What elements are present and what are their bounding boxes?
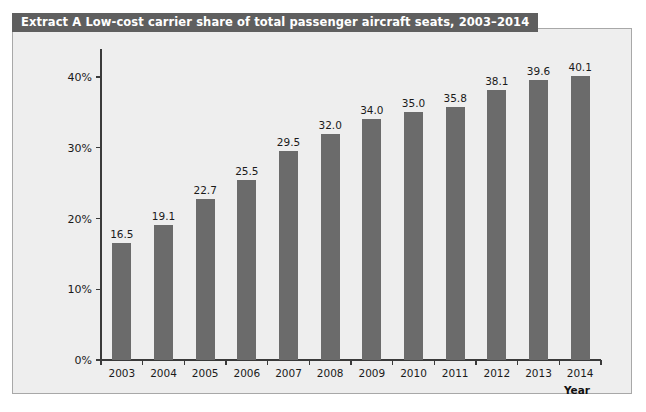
x-axis-tick-label: 2006 [233,367,260,379]
x-axis-title: Year [563,384,591,395]
chart-panel: 0%10%20%30%40%16.5200319.1200422.7200525… [12,28,632,394]
bar [362,119,381,360]
bar-value-label: 25.5 [235,165,258,177]
bar-value-label: 34.0 [360,104,383,116]
bar-value-label: 39.6 [527,65,551,77]
bar [237,180,256,360]
bar [446,107,465,360]
x-axis-tick-label: 2004 [150,367,177,379]
chart-title-bar: Extract A Low-cost carrier share of tota… [12,13,538,32]
x-axis-tick-label: 2014 [567,367,594,379]
bar-value-label: 29.5 [277,136,300,148]
page-title: Extract A Low-cost carrier share of tota… [21,13,529,32]
bar-value-label: 38.1 [485,75,508,87]
y-axis-tick-label: 0% [75,354,92,367]
y-axis-tick-label: 20% [68,213,92,226]
bar-value-label: 22.7 [193,184,216,196]
bar [279,151,298,360]
bar [196,199,215,360]
x-axis-tick-label: 2003 [108,367,135,379]
y-axis-tick-label: 40% [68,71,92,84]
x-axis-tick-label: 2012 [483,367,510,379]
chart-screenshot: 0%10%20%30%40%16.5200319.1200422.7200525… [0,0,646,412]
bar-value-label: 19.1 [152,210,175,222]
bar [571,76,590,360]
bar-value-label: 40.1 [568,61,591,73]
bar [529,80,548,360]
x-axis-tick-label: 2013 [525,367,552,379]
plot-area: 0%10%20%30%40%16.5200319.1200422.7200525… [13,29,633,395]
bar-value-label: 35.0 [402,97,425,109]
y-axis-tick-label: 10% [68,283,92,296]
bar-value-label: 32.0 [318,119,341,131]
x-axis-tick-label: 2009 [358,367,385,379]
x-axis-tick-label: 2008 [317,367,344,379]
x-axis-tick-label: 2010 [400,367,427,379]
x-axis-tick-label: 2007 [275,367,302,379]
bar [487,90,506,360]
bar [404,112,423,360]
bar-chart-svg: 0%10%20%30%40%16.5200319.1200422.7200525… [13,29,633,395]
y-axis-tick-label: 30% [68,142,92,155]
bar [154,225,173,360]
bar [112,243,131,360]
x-axis-tick-label: 2005 [192,367,219,379]
bar-value-label: 35.8 [443,92,466,104]
x-axis-tick-label: 2011 [442,367,469,379]
bar-value-label: 16.5 [110,228,133,240]
bar [321,134,340,360]
